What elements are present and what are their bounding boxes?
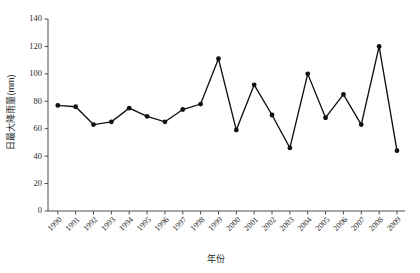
x-axis-ticks: 1990199119921993199419951996199719981999… bbox=[46, 211, 403, 233]
y-tick-label: 40 bbox=[34, 151, 43, 161]
chart-canvas: 日最大降雨量(mm) 020406080100120140 1990199119… bbox=[0, 0, 420, 273]
y-tick-label: 20 bbox=[34, 178, 43, 188]
data-point bbox=[180, 107, 185, 112]
data-point bbox=[323, 115, 328, 120]
data-point bbox=[127, 106, 132, 111]
x-tick-label: 1999 bbox=[206, 215, 224, 233]
y-axis-title: 日最大降雨量(mm) bbox=[5, 75, 16, 150]
x-tick-label: 1993 bbox=[99, 215, 117, 233]
x-tick-label: 1998 bbox=[189, 215, 207, 233]
data-point bbox=[270, 113, 275, 118]
data-point bbox=[145, 114, 150, 119]
data-point bbox=[73, 104, 78, 109]
rainfall-line-chart: 日最大降雨量(mm) 020406080100120140 1990199119… bbox=[0, 0, 420, 273]
data-point bbox=[252, 82, 257, 87]
x-tick-label: 1990 bbox=[46, 215, 64, 233]
data-point bbox=[216, 56, 221, 61]
x-tick-label: 1996 bbox=[153, 215, 171, 233]
x-axis-title: 年份 bbox=[207, 253, 225, 264]
data-point bbox=[287, 146, 292, 151]
y-tick-label: 0 bbox=[38, 205, 42, 215]
x-tick-label: 2002 bbox=[260, 215, 278, 233]
x-tick-label: 2005 bbox=[314, 215, 332, 233]
data-point bbox=[163, 119, 168, 124]
data-series-line bbox=[58, 46, 397, 150]
y-tick-label: 100 bbox=[29, 68, 42, 78]
data-point bbox=[377, 44, 382, 49]
data-point bbox=[234, 128, 239, 133]
y-axis-title-label: 日最大降雨量(mm) bbox=[5, 75, 16, 150]
x-tick-label: 2006 bbox=[331, 215, 349, 233]
y-tick-label: 120 bbox=[29, 41, 42, 51]
x-tick-label: 2009 bbox=[385, 215, 403, 233]
x-tick-label: 2007 bbox=[349, 215, 367, 233]
data-point bbox=[305, 71, 310, 76]
x-tick-label: 1991 bbox=[64, 215, 82, 233]
x-tick-label: 2001 bbox=[242, 215, 260, 233]
x-tick-label: 1994 bbox=[117, 215, 135, 233]
x-tick-label: 1995 bbox=[135, 215, 153, 233]
data-point bbox=[395, 148, 400, 153]
y-tick-label: 140 bbox=[29, 13, 42, 23]
data-point bbox=[198, 102, 203, 107]
x-tick-label: 2000 bbox=[224, 215, 242, 233]
data-point bbox=[91, 122, 96, 127]
x-tick-label: 2003 bbox=[278, 215, 296, 233]
x-tick-label: 2004 bbox=[296, 215, 314, 233]
y-axis-ticks: 020406080100120140 bbox=[29, 13, 48, 215]
y-tick-label: 60 bbox=[34, 123, 43, 133]
x-tick-label: 1992 bbox=[81, 215, 99, 233]
x-tick-label: 2008 bbox=[367, 215, 385, 233]
x-axis-title-label: 年份 bbox=[207, 253, 225, 264]
x-tick-label: 1997 bbox=[171, 215, 189, 233]
data-point bbox=[341, 92, 346, 97]
data-point-markers bbox=[55, 44, 399, 153]
data-point bbox=[359, 122, 364, 127]
data-point bbox=[109, 119, 114, 124]
y-tick-label: 80 bbox=[34, 96, 43, 106]
data-point bbox=[55, 103, 60, 108]
